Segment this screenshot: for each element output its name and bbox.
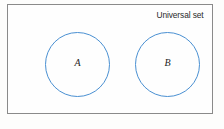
universal-set-label: Universal set: [157, 10, 204, 20]
set-label-b: B: [135, 58, 200, 68]
venn-diagram-canvas: Universal set A B: [0, 0, 224, 129]
set-label-a: A: [45, 58, 110, 68]
universal-set-rectangle: Universal set A B: [7, 4, 213, 114]
